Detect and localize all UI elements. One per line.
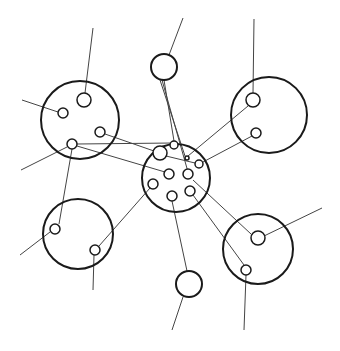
cluster-bottom-left <box>43 199 113 269</box>
cluster-bottom-small <box>176 271 202 297</box>
network-diagram <box>0 0 340 351</box>
cluster-top-right <box>231 77 307 153</box>
cluster-top-small <box>151 54 177 80</box>
cluster-center <box>142 141 210 212</box>
cluster-bottom-right <box>223 214 293 284</box>
